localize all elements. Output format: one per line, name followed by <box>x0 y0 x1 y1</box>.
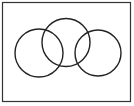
diagram-canvas <box>0 0 134 106</box>
circle-left <box>15 29 63 77</box>
circle-right <box>75 30 121 76</box>
diagram-frame <box>3 3 131 102</box>
circle-middle <box>42 19 90 67</box>
overlapping-circles-diagram <box>0 0 134 106</box>
